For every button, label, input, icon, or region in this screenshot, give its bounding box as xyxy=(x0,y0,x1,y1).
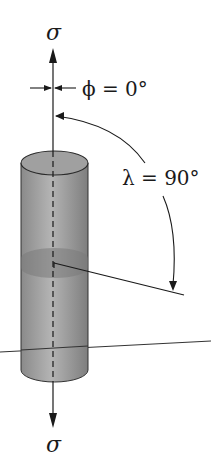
phi-arrow-left-icon xyxy=(54,85,62,91)
phi-arrow-right-icon xyxy=(44,85,52,91)
stress-diagram: σ ϕ = 0° λ = 90° σ xyxy=(0,0,211,464)
arrow-up-icon xyxy=(49,48,57,63)
lambda-arrow-down-icon xyxy=(169,281,177,291)
lambda-arc-lower xyxy=(163,196,174,285)
phi-label: ϕ = 0° xyxy=(82,77,148,101)
lambda-label: λ = 90° xyxy=(122,166,200,190)
arrow-down-icon xyxy=(49,413,57,428)
lambda-arrow-icon xyxy=(55,112,64,120)
cylinder-top-face xyxy=(21,151,88,175)
stress-label-top: σ xyxy=(46,20,62,45)
stress-label-bottom: σ xyxy=(46,432,62,457)
